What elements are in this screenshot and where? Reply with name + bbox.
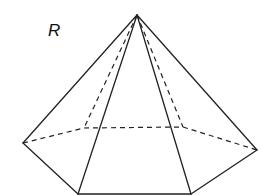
- hidden-edge-left-back-left: [23, 128, 84, 143]
- hidden-edge-apex-back-right: [137, 15, 183, 127]
- hexagonal-pyramid: [0, 0, 267, 196]
- edge-apex-right: [137, 15, 257, 150]
- hidden-edge-apex-back-left: [84, 15, 137, 128]
- edge-left-front-left: [23, 143, 78, 194]
- figure-label: R: [48, 21, 60, 41]
- edge-front-right-right: [191, 150, 257, 194]
- figure: R: [0, 0, 267, 196]
- edge-apex-left: [23, 15, 137, 143]
- edge-apex-front-left: [78, 15, 137, 194]
- hidden-edge-back: [84, 127, 183, 128]
- hidden-edge-back-right-right: [183, 127, 257, 150]
- edge-apex-front-right: [137, 15, 191, 194]
